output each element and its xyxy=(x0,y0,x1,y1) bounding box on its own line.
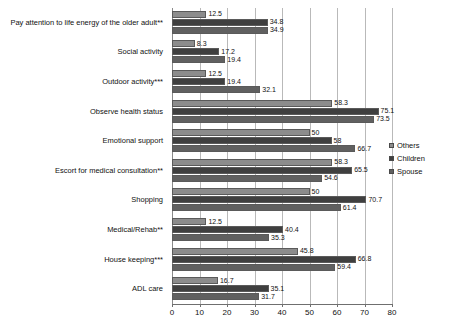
x-tick-mark-10 xyxy=(200,304,201,307)
bar-value-label: 12.5 xyxy=(206,11,222,18)
bar-children xyxy=(172,196,366,203)
x-tick-mark-60 xyxy=(337,304,338,307)
category-label: Shopping xyxy=(131,195,163,204)
bar-children xyxy=(172,167,352,174)
bar-value-label: 16.7 xyxy=(218,277,234,284)
bar-row: 50 xyxy=(172,129,392,136)
bar-value-label: 17.2 xyxy=(219,48,235,55)
x-tick-mark-50 xyxy=(310,304,311,307)
bar-row: 12.5 xyxy=(172,70,392,77)
legend-label: Others xyxy=(397,141,420,150)
bar-value-label: 75.1 xyxy=(379,107,395,114)
bar-spouse xyxy=(172,175,322,182)
bar-value-label: 12.5 xyxy=(206,218,222,225)
bar-group: 16.735.131.7 xyxy=(172,277,392,301)
category-label: House keeping*** xyxy=(104,255,163,264)
x-tick-label: 40 xyxy=(270,308,294,318)
bar-row: 50 xyxy=(172,188,392,195)
legend-label: Children xyxy=(397,154,425,163)
x-tick-label: 20 xyxy=(215,308,239,318)
x-tick-mark-0 xyxy=(172,304,173,307)
x-tick-label: 10 xyxy=(188,308,212,318)
category-label: Pay attention to life energy of the olde… xyxy=(10,18,163,27)
bar-value-label: 58 xyxy=(332,137,342,144)
legend-label: Spouse xyxy=(397,167,422,176)
bar-group: 45.866.859.4 xyxy=(172,248,392,272)
x-tick-mark-30 xyxy=(255,304,256,307)
bar-value-label: 35.3 xyxy=(269,234,285,241)
x-tick-label: 0 xyxy=(160,308,184,318)
bar-row: 70.7 xyxy=(172,196,392,203)
bar-row: 12.5 xyxy=(172,218,392,225)
bar-value-label: 12.5 xyxy=(206,70,222,77)
legend-item-others: Others xyxy=(389,139,425,152)
bar-value-label: 70.7 xyxy=(366,196,382,203)
legend-swatch-icon xyxy=(389,156,394,161)
bar-children xyxy=(172,48,219,55)
bar-group: 505866.7 xyxy=(172,129,392,153)
bar-row: 17.2 xyxy=(172,48,392,55)
bar-value-label: 40.4 xyxy=(283,226,299,233)
bar-value-label: 54.6 xyxy=(322,175,338,182)
bar-row: 61.4 xyxy=(172,204,392,211)
bar-spouse xyxy=(172,204,341,211)
category-label: Outdoor activity*** xyxy=(102,77,163,86)
category-label: ADL care xyxy=(132,284,163,293)
bar-children xyxy=(172,108,379,115)
bar-row: 16.7 xyxy=(172,277,392,284)
bar-value-label: 58.3 xyxy=(332,159,348,166)
bar-row: 19.4 xyxy=(172,56,392,63)
bar-others xyxy=(172,218,206,225)
bar-others xyxy=(172,277,218,284)
legend-swatch-icon xyxy=(389,143,394,148)
bar-value-label: 66.8 xyxy=(356,255,372,262)
bar-spouse xyxy=(172,116,374,123)
bar-row: 12.5 xyxy=(172,11,392,18)
bar-children xyxy=(172,256,356,263)
category-label: Escort for medical consultation** xyxy=(55,166,163,175)
bar-spouse xyxy=(172,145,355,152)
bar-value-label: 73.5 xyxy=(374,115,390,122)
bar-value-label: 58.3 xyxy=(332,99,348,106)
bar-row: 58 xyxy=(172,137,392,144)
bar-spouse xyxy=(172,86,260,93)
bar-value-label: 50 xyxy=(310,129,320,136)
bar-value-label: 34.8 xyxy=(268,19,284,26)
bar-spouse xyxy=(172,264,335,271)
x-tick-label: 50 xyxy=(298,308,322,318)
bar-row: 58.3 xyxy=(172,100,392,107)
x-tick-label: 80 xyxy=(380,308,404,318)
chart-legend: OthersChildrenSpouse xyxy=(389,139,425,178)
bar-value-label: 45.8 xyxy=(298,247,314,254)
x-tick-mark-20 xyxy=(227,304,228,307)
bar-children xyxy=(172,137,332,144)
x-tick-label: 70 xyxy=(353,308,377,318)
x-tick-mark-40 xyxy=(282,304,283,307)
bar-spouse xyxy=(172,27,268,34)
bar-row: 8.3 xyxy=(172,40,392,47)
bar-value-label: 34.9 xyxy=(268,27,284,34)
bar-row: 59.4 xyxy=(172,264,392,271)
category-axis-labels: Pay attention to life energy of the olde… xyxy=(0,8,168,304)
bar-value-label: 59.4 xyxy=(335,263,351,270)
category-label: Social activity xyxy=(118,47,163,56)
legend-item-spouse: Spouse xyxy=(389,165,425,178)
bar-others xyxy=(172,40,195,47)
bar-row: 66.7 xyxy=(172,145,392,152)
category-label: Medical/Rehab** xyxy=(107,225,163,234)
bar-spouse xyxy=(172,56,225,63)
legend-swatch-icon xyxy=(389,169,394,174)
bar-row: 54.6 xyxy=(172,175,392,182)
bar-row: 32.1 xyxy=(172,86,392,93)
bar-row: 75.1 xyxy=(172,108,392,115)
bar-row: 73.5 xyxy=(172,116,392,123)
x-tick-mark-70 xyxy=(365,304,366,307)
bar-value-label: 61.4 xyxy=(341,204,357,211)
bar-value-label: 19.4 xyxy=(225,78,241,85)
bar-children xyxy=(172,226,283,233)
bar-value-label: 35.1 xyxy=(269,285,285,292)
category-label: Emotional support xyxy=(103,136,163,145)
plot-area: 12.534.834.98.317.219.412.519.432.158.37… xyxy=(172,8,392,304)
bar-group: 12.534.834.9 xyxy=(172,11,392,35)
bar-others xyxy=(172,159,332,166)
